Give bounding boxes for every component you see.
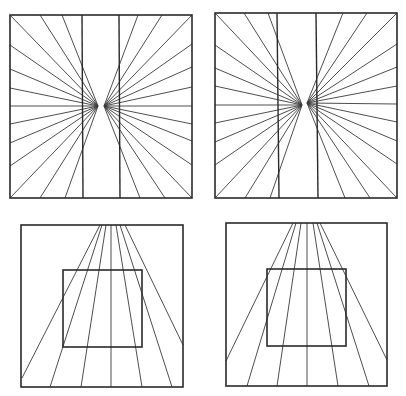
vertical-bar-line — [82, 15, 83, 198]
diagram-svg — [0, 0, 406, 396]
illusion-diagram — [0, 0, 406, 396]
vertical-bar-line — [119, 15, 120, 198]
